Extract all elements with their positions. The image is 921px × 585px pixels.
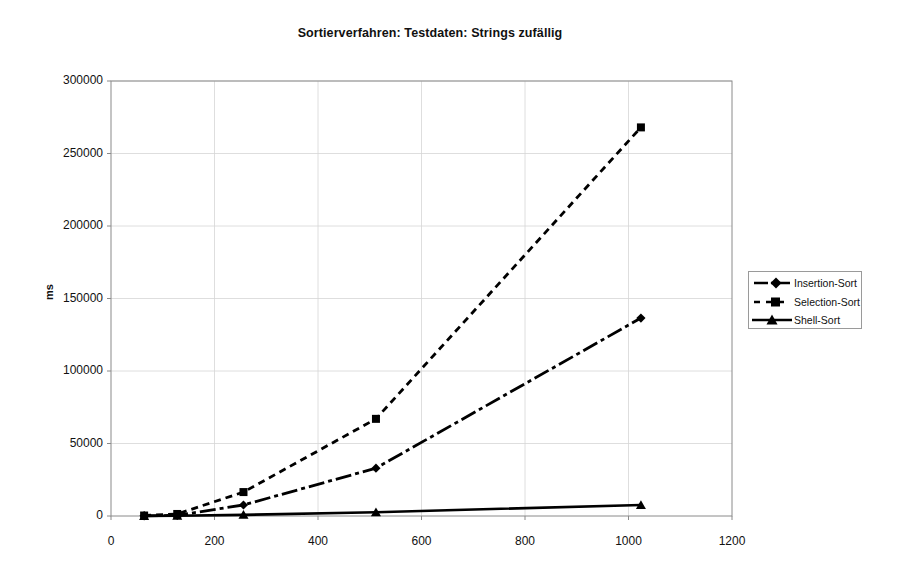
legend-label-selection-sort: Selection-Sort [794,296,860,308]
x-tick-3: 600 [382,534,462,548]
y-tick-3: 150000 [23,291,103,305]
gridlines [111,81,732,516]
x-tick-0: 0 [71,534,151,548]
legend-marker-diamond-icon [751,274,793,292]
legend-item-insertion-sort: Insertion-Sort [749,273,863,292]
legend-item-selection-sort: Selection-Sort [749,292,863,311]
y-tick-4: 200000 [23,218,103,232]
y-tick-2: 100000 [23,363,103,377]
x-tick-4: 800 [485,534,565,548]
y-tick-6: 300000 [23,73,103,87]
legend-marker-square-icon [751,293,793,311]
chart-figure: Sortierverfahren: Testdaten: Strings zuf… [0,0,921,585]
x-tick-2: 400 [278,534,358,548]
y-tick-0: 0 [23,508,103,522]
y-tick-1: 50000 [23,436,103,450]
x-tick-5: 1000 [589,534,669,548]
legend-label-shell-sort: Shell-Sort [794,314,840,326]
legend-marker-triangle-icon [751,311,793,329]
chart-legend: Insertion-Sort Selection-Sort Shell-Sort [748,271,862,329]
y-tick-5: 250000 [23,146,103,160]
x-tick-6: 1200 [692,534,772,548]
legend-label-insertion-sort: Insertion-Sort [794,277,857,289]
plot-frame [107,81,732,520]
series-layer [139,123,646,520]
legend-item-shell-sort: Shell-Sort [749,310,863,329]
x-tick-1: 200 [175,534,255,548]
